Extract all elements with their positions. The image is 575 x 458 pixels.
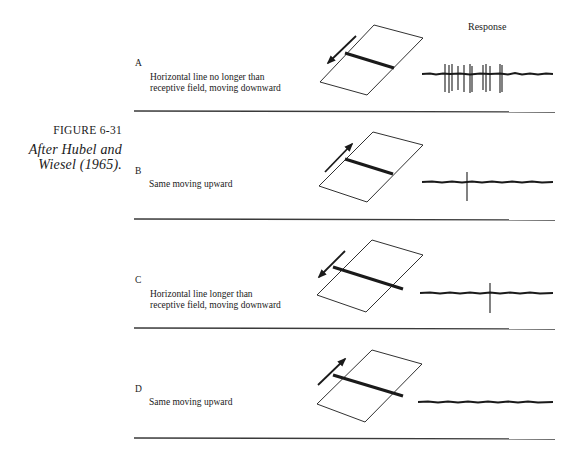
panel-a-stimulus	[320, 25, 423, 95]
receptive-field-outline	[317, 240, 423, 312]
stimulus-bar	[333, 267, 403, 289]
divider-a	[134, 111, 555, 112]
figure-drawings	[0, 0, 575, 458]
stimulus-bar	[333, 375, 403, 396]
divider-b	[134, 219, 555, 220]
panel-d-response-trace	[418, 402, 553, 403]
motion-arrow-down-icon	[319, 251, 345, 277]
divider-d	[134, 438, 555, 439]
stimulus-bar	[345, 159, 393, 174]
panel-b-response-trace	[422, 172, 553, 201]
panel-a-response-trace	[422, 64, 553, 93]
divider-c	[134, 328, 555, 329]
motion-arrow-up-icon	[325, 144, 352, 172]
panel-b-stimulus	[319, 132, 423, 202]
panel-c-response-trace	[420, 283, 553, 313]
stimulus-bar	[345, 53, 394, 68]
panel-c-stimulus	[317, 240, 423, 312]
panel-d-stimulus	[317, 350, 422, 422]
